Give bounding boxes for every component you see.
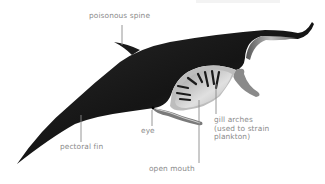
label-open-mouth: open mouth xyxy=(149,165,195,174)
manta-ray-diagram: poisonous spine pectoral fin eye open mo… xyxy=(0,0,325,184)
right-cephalic-lobe xyxy=(233,69,259,97)
label-eye: eye xyxy=(141,127,155,136)
label-gill-arches: gill arches (used to strain plankton) xyxy=(214,116,269,142)
label-pectoral-fin: pectoral fin xyxy=(60,143,103,152)
manta-ray-illustration xyxy=(0,0,325,184)
label-poisonous-spine: poisonous spine xyxy=(89,12,150,21)
left-cephalic-lobe xyxy=(152,108,203,125)
label-gill-arches-line-3: plankton) xyxy=(214,133,269,142)
eye-shape xyxy=(152,107,155,110)
